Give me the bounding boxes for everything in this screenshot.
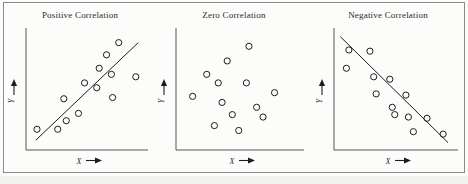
data-point [190, 93, 196, 99]
y-axis-label: Y [315, 97, 324, 103]
data-point [440, 131, 446, 137]
up-arrow-head-icon [319, 79, 325, 86]
right-arrow-head-icon [95, 157, 102, 163]
data-point [219, 99, 225, 105]
data-point [260, 114, 266, 120]
data-point [403, 92, 409, 98]
right-arrow-head-icon [248, 157, 255, 163]
data-point [236, 127, 242, 133]
plot-axes [176, 28, 304, 150]
bottom-strip [0, 176, 468, 184]
data-point [405, 114, 411, 120]
data-point [55, 126, 61, 132]
data-point [211, 123, 217, 129]
data-point [229, 112, 235, 118]
panel-negative-correlation: Negative Correlation XY [312, 0, 464, 172]
data-point [94, 85, 100, 91]
data-point [392, 112, 398, 118]
data-point [243, 80, 249, 86]
data-point [61, 96, 67, 102]
data-point [246, 43, 252, 49]
panel-positive-correlation: Positive Correlation XY [4, 0, 156, 172]
data-point [81, 80, 87, 86]
data-point [204, 71, 210, 77]
up-arrow-head-icon [11, 79, 17, 86]
panel-zero-correlation: Zero Correlation XY [156, 0, 312, 172]
scatter-plot-zero: XY [156, 0, 312, 172]
scatter-plot-negative: XY [312, 0, 464, 172]
data-point [108, 71, 114, 77]
correlation-figure: Positive Correlation XY Zero Correlation… [0, 0, 468, 184]
x-axis-label: X [229, 157, 236, 166]
data-point [373, 91, 379, 97]
data-point [367, 48, 373, 54]
data-point [424, 115, 430, 121]
data-point [75, 110, 81, 116]
data-point [387, 76, 393, 82]
data-point [410, 129, 416, 135]
y-axis-label: Y [157, 97, 166, 103]
trend-line [340, 37, 448, 143]
data-point [103, 52, 109, 58]
data-point [116, 40, 122, 46]
plot-axes [334, 28, 458, 150]
data-point [96, 65, 102, 71]
data-point [343, 65, 349, 71]
data-point [133, 74, 139, 80]
y-axis-label: Y [7, 97, 16, 103]
data-point [271, 90, 277, 96]
trend-line [36, 43, 138, 141]
data-point [389, 104, 395, 110]
right-arrow-head-icon [404, 157, 411, 163]
x-axis-label: X [76, 157, 83, 166]
data-point [215, 80, 221, 86]
up-arrow-head-icon [161, 79, 167, 86]
data-point [254, 104, 260, 110]
data-point [224, 58, 230, 64]
data-point [63, 118, 69, 124]
data-point [346, 47, 352, 53]
data-point [371, 74, 377, 80]
x-axis-label: X [385, 157, 392, 166]
scatter-plot-positive: XY [4, 0, 156, 172]
data-point [34, 126, 40, 132]
data-point [110, 94, 116, 100]
